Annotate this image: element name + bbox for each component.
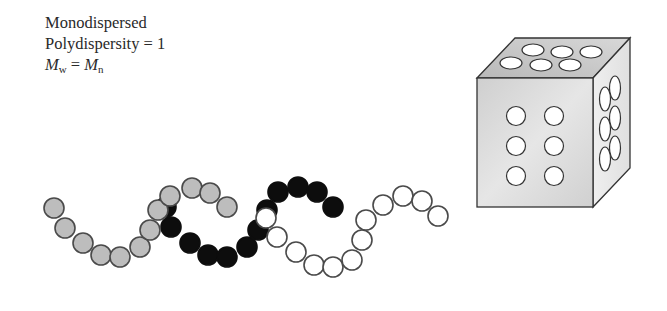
bead xyxy=(217,197,237,217)
bead xyxy=(286,242,306,262)
bead xyxy=(373,195,393,215)
bead xyxy=(217,247,237,267)
bead xyxy=(91,245,111,265)
bead xyxy=(428,206,448,226)
bead xyxy=(342,250,362,270)
bead xyxy=(307,182,327,202)
bead xyxy=(110,247,130,267)
bead xyxy=(323,257,343,277)
bead xyxy=(140,220,160,240)
bead xyxy=(352,230,372,250)
bead xyxy=(73,233,93,253)
bead xyxy=(323,197,343,217)
bead xyxy=(267,227,287,247)
bead xyxy=(160,186,180,206)
bead xyxy=(182,178,202,198)
bead xyxy=(161,217,181,237)
cube-front-face xyxy=(477,78,593,207)
bead xyxy=(268,182,288,202)
bead xyxy=(200,183,220,203)
right-face-holes xyxy=(600,76,621,171)
bead xyxy=(412,191,432,211)
bead xyxy=(180,233,200,253)
bead xyxy=(304,255,324,275)
dice-cube xyxy=(477,38,630,207)
bead xyxy=(55,218,75,238)
diagram-canvas xyxy=(0,0,667,311)
bead xyxy=(44,198,64,218)
polymer-chains xyxy=(44,177,448,277)
bead xyxy=(393,186,413,206)
bead xyxy=(198,245,218,265)
bead xyxy=(288,177,308,197)
bead xyxy=(356,210,376,230)
bead xyxy=(256,208,276,228)
